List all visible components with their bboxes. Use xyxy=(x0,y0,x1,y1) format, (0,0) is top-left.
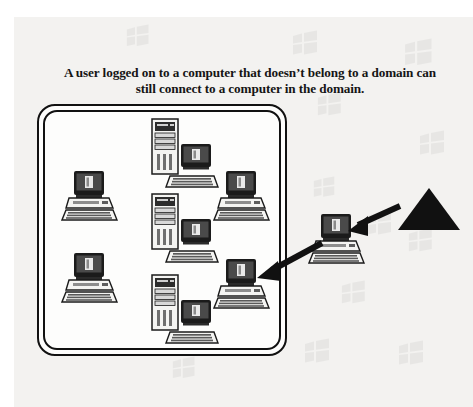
figure-page: A user logged on to a computer that does… xyxy=(0,0,473,407)
scanned-page-area: A user logged on to a computer that does… xyxy=(14,17,473,407)
user-marker-triangle xyxy=(398,188,460,230)
